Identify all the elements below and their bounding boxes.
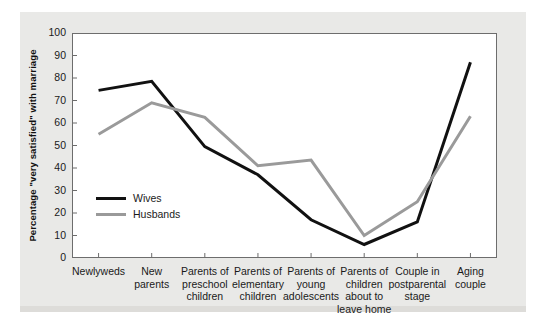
chart-svg: [0, 0, 542, 334]
legend-label: Wives: [133, 191, 162, 205]
legend-color-swatch: [96, 197, 126, 200]
legend-color-swatch: [96, 213, 126, 216]
chart-figure: Percentage "very satisfied" with marriag…: [0, 0, 542, 334]
legend-item: Husbands: [96, 206, 180, 222]
legend-label: Husbands: [133, 207, 180, 221]
legend-item: Wives: [96, 190, 180, 206]
chart-legend: WivesHusbands: [96, 190, 180, 222]
